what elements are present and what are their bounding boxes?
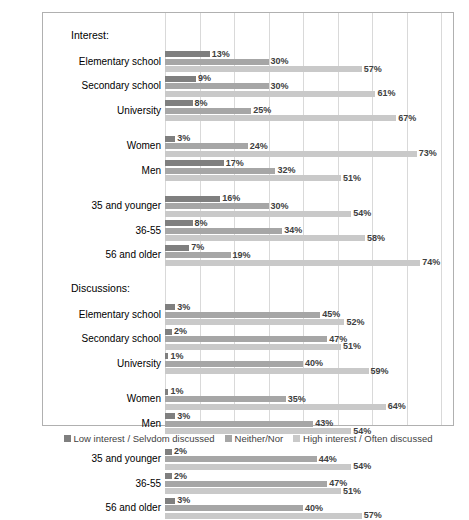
chart-bar [165,100,193,106]
chart-bar [165,252,231,258]
chart-bar [165,245,189,251]
chart-bar [165,404,386,410]
chart-bar [165,304,175,310]
chart-bar [165,413,175,419]
chart-bar [165,91,375,97]
chart-category-label: Men [43,418,161,429]
chart-bar [165,151,417,157]
chart-bar [165,513,362,519]
chart-bar-value: 17% [226,159,244,168]
chart-category-label: 35 and younger [43,453,161,464]
chart-section-title: Interest: [71,29,109,41]
chart-bar [165,473,172,479]
chart-bar-value: 30% [271,57,289,66]
chart-bar [165,421,313,427]
chart-bar-value: 52% [346,318,364,327]
chart-bar [165,51,210,57]
chart-category-label: Elementary school [43,56,161,67]
chart-bar [165,389,168,395]
chart-category-label: Women [43,140,161,151]
chart-plot-area: Interest:Elementary school13%30%57%Secon… [42,12,454,426]
chart-bar-value: 13% [212,50,230,59]
chart-bar [165,59,269,65]
chart-category-label: 35 and younger [43,200,161,211]
legend-label: Neither/Nor [235,433,284,444]
chart-bar [165,115,396,121]
chart-category-label: Women [43,393,161,404]
chart-category-label: Men [43,165,161,176]
chart-bar-value: 2% [174,447,187,456]
chart-bar [165,168,275,174]
chart-bar [165,353,168,359]
chart-bar [165,175,341,181]
chart-bar [165,203,269,209]
chart-bar [165,136,175,142]
chart-bar [165,76,196,82]
chart-bars-layer: Interest:Elementary school13%30%57%Secon… [43,13,453,425]
chart-bar-value: 24% [250,142,268,151]
legend-label: Low interest / Selvdom discussed [74,433,215,444]
chart-bar [165,235,365,241]
legend-item[interactable]: High interest / Often discussed [293,433,432,444]
chart-bar-value: 43% [315,419,333,428]
chart-bar [165,456,317,462]
chart-gridline [441,13,442,425]
chart-bar-value: 25% [253,106,271,115]
chart-bar-value: 9% [198,74,211,83]
chart-bar [165,108,251,114]
chart-bar-value: 54% [353,209,371,218]
chart-bar [165,498,175,504]
legend-swatch-icon [293,435,300,442]
chart-category-label: 36-55 [43,225,161,236]
chart-bar-value: 64% [388,402,406,411]
chart-bar-value: 73% [419,149,437,158]
chart-bar-value: 3% [177,496,190,505]
chart-bar [165,211,351,217]
chart-bar [165,449,172,455]
chart-bar [165,66,362,72]
chart-gridline [303,13,304,425]
chart-bar-value: 51% [343,487,361,496]
chart-bar-value: 59% [371,367,389,376]
chart-category-label: Secondary school [43,333,161,344]
chart-bar [165,505,303,511]
chart-category-label: 56 and older [43,249,161,260]
chart-gridline [372,13,373,425]
legend-swatch-icon [64,435,71,442]
chart-bar [165,336,327,342]
chart-category-label: University [43,105,161,116]
chart-bar-value: 40% [305,504,323,513]
chart-bar [165,220,193,226]
chart-bar-value: 57% [364,511,382,520]
legend-item[interactable]: Low interest / Selvdom discussed [64,433,215,444]
chart-bar-value: 3% [177,412,190,421]
legend-label: High interest / Often discussed [303,433,432,444]
legend-swatch-icon [225,435,232,442]
chart-bar [165,329,172,335]
legend-item[interactable]: Neither/Nor [225,433,284,444]
chart-bar [165,481,327,487]
chart-bar-value: 40% [305,359,323,368]
chart-bar [165,260,420,266]
chart-bar-value: 35% [288,395,306,404]
chart-bar-value: 67% [398,114,416,123]
chart-bar-value: 2% [174,472,187,481]
chart-bar [165,143,248,149]
chart-section-title: Discussions: [71,282,130,294]
chart-bar-value: 8% [195,99,208,108]
chart-bar-value: 30% [271,202,289,211]
chart-bar-value: 51% [343,342,361,351]
chart-bar-value: 16% [222,194,240,203]
chart-bar [165,160,224,166]
chart-bar-value: 45% [322,310,340,319]
chart-bar [165,488,341,494]
chart-bar-value: 61% [377,89,395,98]
chart-bar-value: 58% [367,234,385,243]
chart-category-label: Secondary school [43,80,161,91]
chart-bar-value: 8% [195,219,208,228]
chart-bar [165,196,220,202]
chart-category-label: 36-55 [43,478,161,489]
chart-category-label: Elementary school [43,309,161,320]
chart-category-label: 56 and older [43,502,161,513]
chart-bar-value: 44% [319,455,337,464]
